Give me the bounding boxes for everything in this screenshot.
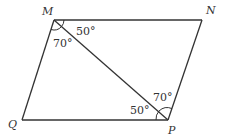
angle-label-qmp: 70° <box>53 37 73 50</box>
vertex-label-n: N <box>205 4 216 17</box>
angle-label-mpq: 50° <box>130 104 150 117</box>
angle-arc-mpn <box>159 108 172 111</box>
vertex-label-p: P <box>167 124 176 137</box>
vertex-label-m: M <box>41 5 54 18</box>
angle-arc-qmp <box>51 27 62 30</box>
vertex-label-q: Q <box>8 118 17 131</box>
angle-arc-mpq <box>156 111 159 120</box>
diagonal-mp <box>54 20 168 120</box>
angle-label-mpn: 70° <box>153 91 173 104</box>
angle-arc-nmp <box>62 20 65 27</box>
edge-np <box>168 20 202 120</box>
parallelogram-diagram: M N Q P 50° 70° 70° 50° <box>0 0 226 138</box>
edge-qm <box>22 20 54 120</box>
angle-label-nmp: 50° <box>76 25 96 38</box>
